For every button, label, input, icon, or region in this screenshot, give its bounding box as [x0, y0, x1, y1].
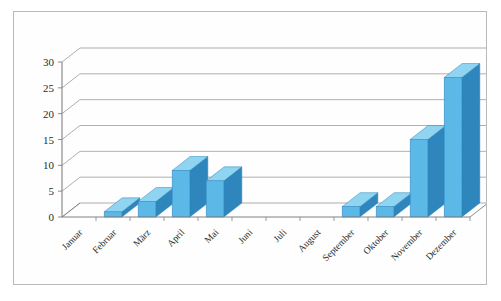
x-axis-category-label: August [296, 227, 323, 254]
bar-column [206, 167, 242, 217]
grid-line [62, 74, 486, 88]
grid-line [62, 100, 486, 114]
bar-front-face [342, 207, 360, 217]
bar-column [342, 193, 378, 217]
caption-cutoff-text [18, 290, 478, 301]
bar-column [172, 157, 208, 218]
x-axis-category-label: November [389, 227, 425, 263]
bar-column [376, 193, 412, 217]
y-axis-tick-label: 15 [43, 134, 55, 146]
bar-column [410, 126, 446, 218]
y-axis-tick-label: 10 [43, 159, 55, 171]
bar-front-face [444, 78, 462, 218]
bar-side-face [462, 64, 480, 218]
y-axis-tick-label: 0 [49, 211, 55, 223]
x-axis-category-label: März [131, 227, 152, 248]
y-axis-tick-label: 30 [43, 56, 55, 68]
x-axis-category-label: April [165, 227, 187, 249]
x-axis-category-label: Februar [91, 227, 120, 256]
tick-labels: 051015202530JanuarFebruarMärzAprilMaiJun… [43, 56, 459, 263]
bar-column [104, 198, 140, 217]
bar-column [138, 188, 174, 218]
y-axis-tick-label: 25 [43, 82, 55, 94]
bar-front-face [410, 140, 428, 218]
bar-front-face [104, 212, 122, 217]
bar-front-face [376, 207, 394, 217]
grid-line [62, 48, 486, 62]
x-axis-category-label: Dezember [424, 227, 459, 262]
x-axis-category-label: Mai [203, 227, 221, 245]
bar-chart-plot: 051015202530JanuarFebruarMärzAprilMaiJun… [14, 12, 486, 284]
bar-front-face [206, 181, 224, 217]
x-axis-category-label: Oktober [361, 227, 391, 257]
x-axis-category-label: Januar [60, 227, 85, 252]
chart-frame: 051015202530JanuarFebruarMärzAprilMaiJun… [13, 11, 487, 285]
bar-side-face [428, 126, 446, 218]
x-axis-category-label: September [321, 227, 357, 263]
bar-front-face [172, 171, 190, 218]
y-axis-tick-label: 5 [49, 185, 55, 197]
bars [104, 64, 480, 218]
caption-strip [18, 290, 478, 301]
bar-column [444, 64, 480, 218]
floor-left-edge [62, 203, 80, 217]
x-axis-category-label: Juli [272, 227, 289, 244]
y-axis-tick-label: 20 [43, 108, 55, 120]
x-axis-category-label: Juni [236, 227, 255, 246]
bar-front-face [138, 202, 156, 218]
